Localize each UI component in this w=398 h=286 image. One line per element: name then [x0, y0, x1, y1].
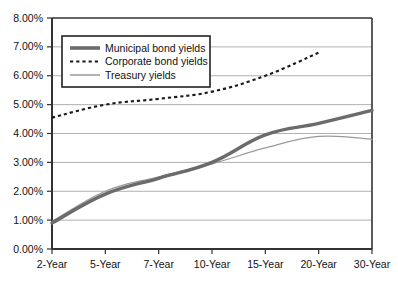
y-tick-label: 6.00%	[13, 69, 43, 81]
y-tick-label: 8.00%	[13, 12, 43, 24]
y-tick-label: 1.00%	[13, 214, 43, 226]
x-tick-label: 15-Year	[247, 258, 284, 270]
x-tick-label: 30-Year	[354, 258, 391, 270]
y-tick-label: 7.00%	[13, 40, 43, 52]
x-tick-label: 10-Year	[194, 258, 231, 270]
y-axis-tick-labels: 8.00%7.00%6.00%5.00%4.00%3.00%2.00%1.00%…	[13, 12, 43, 255]
yield-curve-chart: 8.00%7.00%6.00%5.00%4.00%3.00%2.00%1.00%…	[0, 0, 398, 286]
y-tick-label: 0.00%	[13, 243, 43, 255]
legend-label-treasury: Treasury yields	[105, 69, 176, 81]
chart-canvas: 8.00%7.00%6.00%5.00%4.00%3.00%2.00%1.00%…	[0, 0, 398, 286]
legend-label-corporate: Corporate bond yields	[105, 55, 208, 67]
chart-legend: Municipal bond yields Corporate bond yie…	[62, 36, 210, 87]
y-tick-label: 2.00%	[13, 185, 43, 197]
y-tick-label: 4.00%	[13, 127, 43, 139]
y-tick-label: 3.00%	[13, 156, 43, 168]
x-tick-label: 5-Year	[90, 258, 121, 270]
legend-label-municipal: Municipal bond yields	[105, 42, 205, 54]
y-tick-label: 5.00%	[13, 98, 43, 110]
x-tick-label: 7-Year	[143, 258, 174, 270]
x-axis-tick-labels: 2-Year5-Year7-Year10-Year15-Year20-Year3…	[37, 258, 391, 270]
x-tick-label: 20-Year	[300, 258, 337, 270]
x-tick-label: 2-Year	[37, 258, 68, 270]
